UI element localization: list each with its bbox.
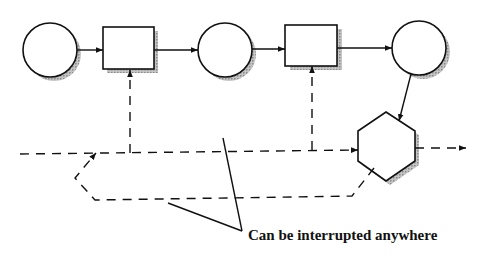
process-flow-diagram: Can be interrupted anywhere xyxy=(0,0,481,257)
node-circle-2 xyxy=(198,23,252,77)
interrupt-main-line xyxy=(20,150,358,154)
return-loop xyxy=(75,153,374,200)
node-rect-1 xyxy=(103,27,154,69)
annotation-text: Can be interrupted anywhere xyxy=(248,227,438,243)
node-circle-3 xyxy=(392,21,446,75)
node-circle-1 xyxy=(23,23,77,77)
node-rect-2 xyxy=(285,25,337,66)
edge-circle3-hexagon xyxy=(399,74,411,121)
